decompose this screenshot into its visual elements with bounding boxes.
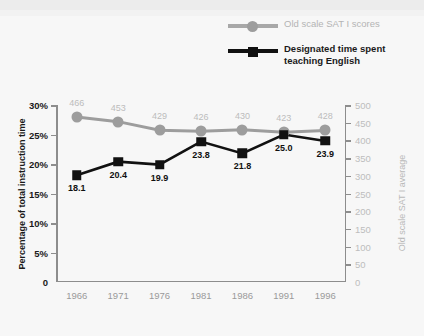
x-axis-ticklabel: 1971 <box>108 290 129 301</box>
data-point <box>113 116 124 127</box>
data-point-label: 428 <box>318 111 333 121</box>
right-axis-tick <box>346 229 351 231</box>
data-point-label: 423 <box>276 113 291 123</box>
right-axis-tick <box>346 264 351 266</box>
data-point-label: 23.9 <box>317 149 335 159</box>
right-axis-ticklabel: 150 <box>355 223 371 234</box>
top-band-secondary <box>0 10 424 16</box>
data-point <box>196 137 206 147</box>
plot-area: 05%10%15%20%25%30% 050100150200250300350… <box>56 105 346 282</box>
right-axis-ticklabel: 300 <box>355 170 371 181</box>
right-axis-ticklabel: 50 <box>355 259 366 270</box>
left-axis-tick <box>51 194 56 196</box>
left-axis-ticklabel: 20% <box>29 159 48 170</box>
data-point-label: 426 <box>193 112 208 122</box>
data-point <box>71 112 82 123</box>
left-axis-ticklabel: 25% <box>29 129 48 140</box>
left-axis-ticklabel: 5% <box>34 247 48 258</box>
data-point-label: 429 <box>152 111 167 121</box>
top-band <box>0 0 424 10</box>
left-axis-ticklabel: 30% <box>29 100 48 111</box>
data-point-label: 453 <box>111 103 126 113</box>
data-point <box>155 160 165 170</box>
legend-key-gray <box>228 19 278 33</box>
chart-canvas: Old scale SAT I scores Designated time s… <box>0 0 424 336</box>
x-axis-ticklabel: 1991 <box>273 290 294 301</box>
right-axis-ticklabel: 200 <box>355 206 371 217</box>
right-axis-tick <box>346 140 351 142</box>
right-axis-tick <box>346 194 351 196</box>
left-axis-tick <box>51 253 56 255</box>
right-axis-title-text: Old scale SAT I average <box>397 154 407 251</box>
data-point <box>113 157 123 167</box>
data-point <box>237 124 248 135</box>
square-marker-icon <box>248 47 258 57</box>
right-axis-ticklabel: 450 <box>355 117 371 128</box>
x-axis-ticklabel: 1976 <box>149 290 170 301</box>
left-axis-ticklabel: 10% <box>29 218 48 229</box>
data-point <box>321 136 331 146</box>
right-axis-tick <box>346 158 351 160</box>
right-axis-ticklabel: 0 <box>355 277 360 288</box>
data-point <box>238 149 248 159</box>
data-point <box>279 130 289 140</box>
circle-marker-icon <box>247 21 258 32</box>
left-axis-tick <box>51 135 56 137</box>
right-axis-ticklabel: 100 <box>355 241 371 252</box>
right-axis-tick <box>346 105 351 107</box>
right-axis-ticklabel: 350 <box>355 153 371 164</box>
legend-key-black <box>228 44 278 58</box>
right-axis-title: Old scale SAT I average <box>396 120 408 285</box>
data-point-label: 21.8 <box>234 161 252 171</box>
legend-label-sat-scores: Old scale SAT I scores <box>278 18 380 30</box>
data-point-label: 20.4 <box>109 170 127 180</box>
right-axis-ticklabel: 250 <box>355 188 371 199</box>
data-point <box>320 125 331 136</box>
left-axis-tick <box>51 223 56 225</box>
right-axis-tick <box>346 123 351 125</box>
right-axis-ticklabel: 400 <box>355 135 371 146</box>
legend-item-sat-scores: Old scale SAT I scores <box>228 18 418 33</box>
right-axis-tick <box>346 211 351 213</box>
x-axis-ticklabel: 1966 <box>66 290 87 301</box>
data-point-label: 466 <box>69 98 84 108</box>
right-axis-tick <box>346 247 351 249</box>
left-axis-ticklabel: 15% <box>29 188 48 199</box>
x-axis-ticklabel: 1996 <box>315 290 336 301</box>
left-axis-tick <box>51 164 56 166</box>
chart-legend: Old scale SAT I scores Designated time s… <box>228 18 418 76</box>
legend-label-teaching-time: Designated time spent teaching English <box>278 43 418 66</box>
data-point-label: 18.1 <box>68 183 86 193</box>
left-axis-title-text: Percentage of total instruction time <box>17 118 27 269</box>
x-axis-ticklabel: 1981 <box>190 290 211 301</box>
right-axis-tick <box>346 176 351 178</box>
data-point <box>72 170 82 180</box>
left-axis-tick <box>51 105 56 107</box>
left-axis-title: Percentage of total instruction time <box>16 105 28 282</box>
data-point-label: 25.0 <box>275 143 293 153</box>
right-axis-ticklabel: 500 <box>355 100 371 111</box>
data-point-label: 23.8 <box>192 150 210 160</box>
data-point-label: 19.9 <box>151 173 169 183</box>
legend-item-teaching-time: Designated time spent teaching English <box>228 43 418 66</box>
x-axis-ticklabel: 1986 <box>232 290 253 301</box>
left-axis-ticklabel: 0 <box>43 277 48 288</box>
data-point <box>196 126 207 137</box>
data-point-label: 430 <box>235 111 250 121</box>
data-point <box>154 125 165 136</box>
